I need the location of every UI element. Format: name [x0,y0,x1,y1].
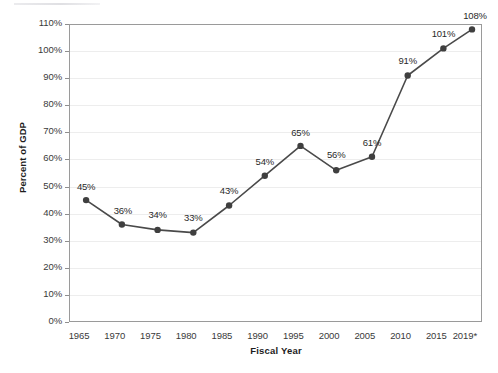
data-point-label: 33% [170,212,216,223]
data-point-label: 45% [63,181,109,192]
data-point-marker [83,197,89,203]
x-axis-title: Fiscal Year [69,345,483,356]
data-point-marker [369,154,375,160]
data-point-marker [333,167,339,173]
data-point-marker [226,202,232,208]
data-point-marker [262,173,268,179]
data-point-label: 91% [385,55,431,66]
line-chart: Percent of GDP 110%100%90%80%70%60%50%40… [0,0,498,373]
data-point-label: 56% [313,149,359,160]
data-point-marker [469,26,475,32]
data-point-label: 54% [242,156,288,167]
data-point-marker [154,227,160,233]
data-point-marker [297,143,303,149]
data-point-label: 61% [349,137,395,148]
data-point-label: 65% [278,127,324,138]
data-point-marker [440,45,446,51]
data-point-label: 108% [452,10,498,21]
data-point-marker [405,72,411,78]
data-point-label: 101% [420,28,466,39]
data-point-marker [119,221,125,227]
data-point-label: 43% [206,185,252,196]
data-point-marker [190,229,196,235]
x-axis-tick-label: 2019* [443,330,487,341]
